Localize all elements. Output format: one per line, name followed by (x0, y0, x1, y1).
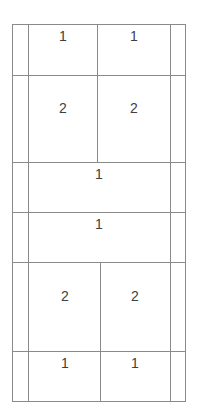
col-divider (100, 262, 101, 402)
cell: 1 (125, 355, 145, 371)
row-border (12, 401, 186, 402)
col-border (170, 24, 171, 402)
cell: 1 (124, 28, 144, 44)
cell: 1 (89, 166, 109, 182)
row-border (12, 162, 186, 163)
cell: 2 (125, 288, 145, 304)
col-divider (97, 24, 98, 162)
col-border (185, 24, 186, 402)
row-border (12, 351, 186, 352)
col-border (28, 24, 29, 402)
cell: 1 (53, 28, 73, 44)
cell: 1 (89, 216, 109, 232)
cell: 2 (53, 100, 73, 116)
col-border (12, 24, 13, 402)
row-border (12, 212, 186, 213)
row-border (12, 24, 186, 25)
cell: 2 (124, 100, 144, 116)
row-border (12, 262, 186, 263)
cell: 1 (55, 355, 75, 371)
row-border (12, 75, 186, 76)
cell: 2 (55, 288, 75, 304)
